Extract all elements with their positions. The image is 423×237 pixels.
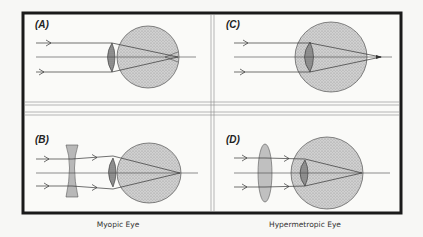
panel-d-label: (D)	[226, 134, 241, 145]
panel-b-label: (B)	[35, 134, 50, 145]
panel-c-label: (C)	[226, 19, 241, 30]
eye-defects-diagram: (A) (C) (B)	[0, 0, 423, 237]
panel-a-label: (A)	[35, 19, 50, 30]
caption-myopic-eye: Myopic Eye	[97, 220, 140, 229]
caption-hypermetropic-eye: Hypermetropic Eye	[269, 220, 341, 229]
